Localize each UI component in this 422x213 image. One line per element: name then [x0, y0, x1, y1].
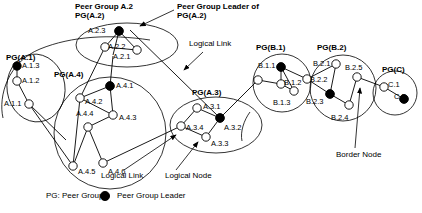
node-label-a21: A.2.1 — [113, 53, 131, 61]
node-label-b24: B.2.4 — [331, 114, 349, 122]
node-a45[interactable] — [69, 162, 77, 170]
node-label-c2: C.2 — [394, 93, 406, 101]
group-label-pg-c: PG(C) — [382, 66, 405, 74]
node-label-b23: B.2.3 — [306, 98, 324, 106]
annotation-border-node: Border Node — [336, 151, 381, 159]
node-a11[interactable] — [25, 100, 33, 108]
node-a34[interactable] — [177, 122, 185, 130]
node-label-a12: A.1.2 — [22, 77, 40, 85]
group-label-pg-b2: PG(B.2) — [317, 44, 346, 52]
node-label-a32: A.3.2 — [224, 124, 242, 132]
group-label-pg-a4: PG(A.4) — [54, 71, 83, 79]
group-label-pg-a3: PG(A.3) — [192, 89, 221, 97]
link-a44-a46 — [88, 127, 103, 163]
node-label-a44: A.4.4 — [76, 110, 94, 118]
leader-border-node — [355, 88, 360, 148]
node-label-a43: A.4.3 — [119, 114, 137, 122]
node-label-b12: B.1.2 — [284, 79, 302, 87]
node-a41-leader[interactable] — [106, 82, 115, 91]
node-label-a31: A.3.1 — [203, 103, 221, 111]
link-a32-b12 — [220, 80, 258, 118]
node-b24[interactable] — [345, 101, 353, 109]
annotation-peer-group-a2: Peer Group A.2 — [75, 3, 133, 11]
node-label-a41: A.4.1 — [116, 82, 134, 90]
leader-logical-node — [176, 142, 198, 170]
node-label-b22: B.2.2 — [310, 76, 328, 84]
node-a33[interactable] — [202, 133, 210, 141]
node-label-a11: A.1.1 — [4, 100, 22, 108]
annotation-logical-link-top: Logical Link — [189, 40, 231, 48]
link-a22-a42 — [80, 47, 105, 98]
leader-logical-link-top — [184, 52, 203, 70]
node-a44[interactable] — [84, 123, 92, 131]
annotation-peer-group-leader: Peer Group Leader of — [177, 3, 259, 11]
node-b23-leader[interactable] — [326, 90, 335, 99]
node-a43[interactable] — [109, 111, 117, 119]
annotation-peer-group-leader-sub: PG(A.2) — [177, 12, 206, 20]
network-nodes — [13, 27, 409, 171]
node-label-a34: A.3.4 — [186, 124, 204, 132]
node-a13-leader[interactable] — [13, 62, 21, 70]
node-b1-border[interactable] — [254, 76, 262, 84]
node-label-b11: B.1.1 — [258, 62, 276, 70]
node-label-b13: B.1.3 — [273, 99, 291, 107]
node-label-a23: A.2.3 — [88, 27, 106, 35]
annotation-logical-node: Logical Node — [165, 172, 212, 180]
node-a21[interactable] — [133, 46, 141, 54]
boundary-pg-b-outer — [241, 112, 250, 141]
node-a46[interactable] — [99, 159, 107, 167]
node-label-a42: A.4.2 — [85, 98, 103, 106]
node-a31[interactable] — [193, 104, 201, 112]
node-label-a33: A.3.3 — [211, 140, 229, 148]
node-b25-border[interactable] — [353, 73, 361, 81]
node-a23-leader[interactable] — [115, 27, 124, 36]
node-label-b21: B.2.1 — [313, 60, 331, 68]
node-label-b25: B.2.5 — [345, 64, 363, 72]
node-a32-leader[interactable] — [216, 114, 225, 123]
node-label-a46: A.4.6 — [108, 168, 126, 176]
link-a11-a45 — [29, 104, 73, 166]
node-b13[interactable] — [290, 87, 298, 95]
node-label-a45: A.4.5 — [78, 168, 96, 176]
node-b11-leader[interactable] — [277, 63, 286, 72]
legend-pg-abbreviation: PG: Peer Group — [46, 192, 103, 200]
node-label-a13: A.1.3 — [22, 62, 40, 70]
node-label-c1: C.1 — [388, 81, 400, 89]
node-c1[interactable] — [380, 83, 388, 91]
group-label-pg-b1: PG(B.1) — [256, 44, 285, 52]
node-b21[interactable] — [332, 60, 340, 68]
annotation-peer-group-a2-sub: PG(A.2) — [75, 12, 104, 20]
leader-pg-leader-a2 — [140, 10, 174, 26]
node-label-a22: A.2.2 — [108, 43, 126, 51]
diagram-canvas: Peer Group A.2 PG(A.2) Peer Group Leader… — [0, 0, 422, 213]
node-a12[interactable] — [13, 77, 21, 85]
node-a42[interactable] — [76, 94, 84, 102]
legend-leader-label: Peer Group Leader — [117, 192, 186, 200]
